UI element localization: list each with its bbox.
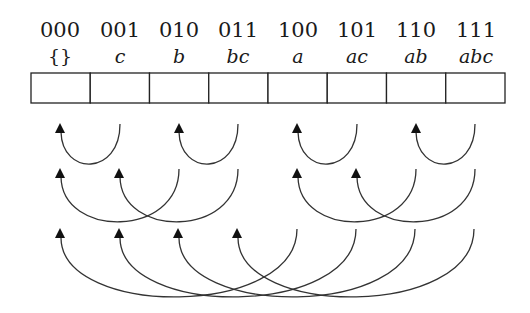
- set-labels: {} c b bc a ac ab abc: [48, 45, 494, 67]
- arrowhead-icon: [174, 123, 184, 133]
- bit-label-3: 011: [218, 18, 258, 42]
- bit-label-7: 111: [456, 18, 496, 42]
- arc-row-1: [55, 123, 475, 164]
- arrowhead-icon: [292, 123, 302, 133]
- array-cell-5: [327, 73, 386, 103]
- array-cell-7: [446, 73, 505, 103]
- arrowhead-icon: [55, 123, 65, 133]
- set-label-0: {}: [48, 45, 72, 67]
- set-label-1: c: [115, 45, 126, 67]
- set-label-3: bc: [227, 45, 250, 67]
- set-label-7: abc: [459, 45, 493, 67]
- array-cell-6: [387, 73, 446, 103]
- array-cell-1: [90, 73, 149, 103]
- bit-label-2: 010: [159, 18, 199, 42]
- arc-011-to-010: [179, 124, 238, 164]
- arrowhead-icon: [55, 228, 65, 238]
- array-cell-2: [150, 73, 209, 103]
- arrowhead-icon: [114, 168, 124, 178]
- array-cell-0: [31, 73, 90, 103]
- arc-111-to-110: [416, 124, 475, 164]
- arc-row-3: [55, 228, 474, 297]
- bit-labels: 000 001 010 011 100 101 110 111: [40, 18, 496, 42]
- array-cell-3: [209, 73, 268, 103]
- bit-label-6: 110: [396, 18, 436, 42]
- subset-array-diagram: 000 001 010 011 100 101 110 111 {} c b b…: [0, 0, 530, 313]
- arrowhead-icon: [173, 228, 183, 238]
- set-label-6: ab: [404, 45, 428, 67]
- set-label-5: ac: [346, 45, 368, 67]
- arrowhead-icon: [351, 168, 361, 178]
- arc-111-to-011: [238, 229, 474, 297]
- arc-001-to-000: [61, 124, 120, 164]
- arrowhead-icon: [411, 123, 421, 133]
- bit-label-0: 000: [40, 18, 80, 42]
- arc-110-to-010: [179, 229, 415, 297]
- arrowhead-icon: [114, 228, 124, 238]
- arc-row-2: [55, 168, 475, 222]
- arrowhead-icon: [292, 168, 302, 178]
- set-label-4: a: [292, 45, 303, 67]
- arc-101-to-100: [298, 124, 357, 164]
- bit-label-4: 100: [278, 18, 318, 42]
- arrowhead-icon: [232, 228, 242, 238]
- set-label-2: b: [173, 45, 185, 67]
- bit-label-5: 101: [337, 18, 377, 42]
- array-cells: [31, 73, 505, 103]
- bit-label-1: 001: [100, 18, 140, 42]
- arrowhead-icon: [55, 168, 65, 178]
- array-cell-4: [268, 73, 327, 103]
